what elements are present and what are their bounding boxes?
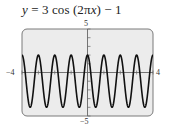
- graph-plot: 5 −5 −4 4: [0, 0, 170, 127]
- x-max-label: 4: [156, 68, 160, 77]
- y-max-label: 5: [84, 19, 88, 28]
- y-min-label: −5: [80, 117, 89, 126]
- x-min-label: −4: [6, 68, 15, 77]
